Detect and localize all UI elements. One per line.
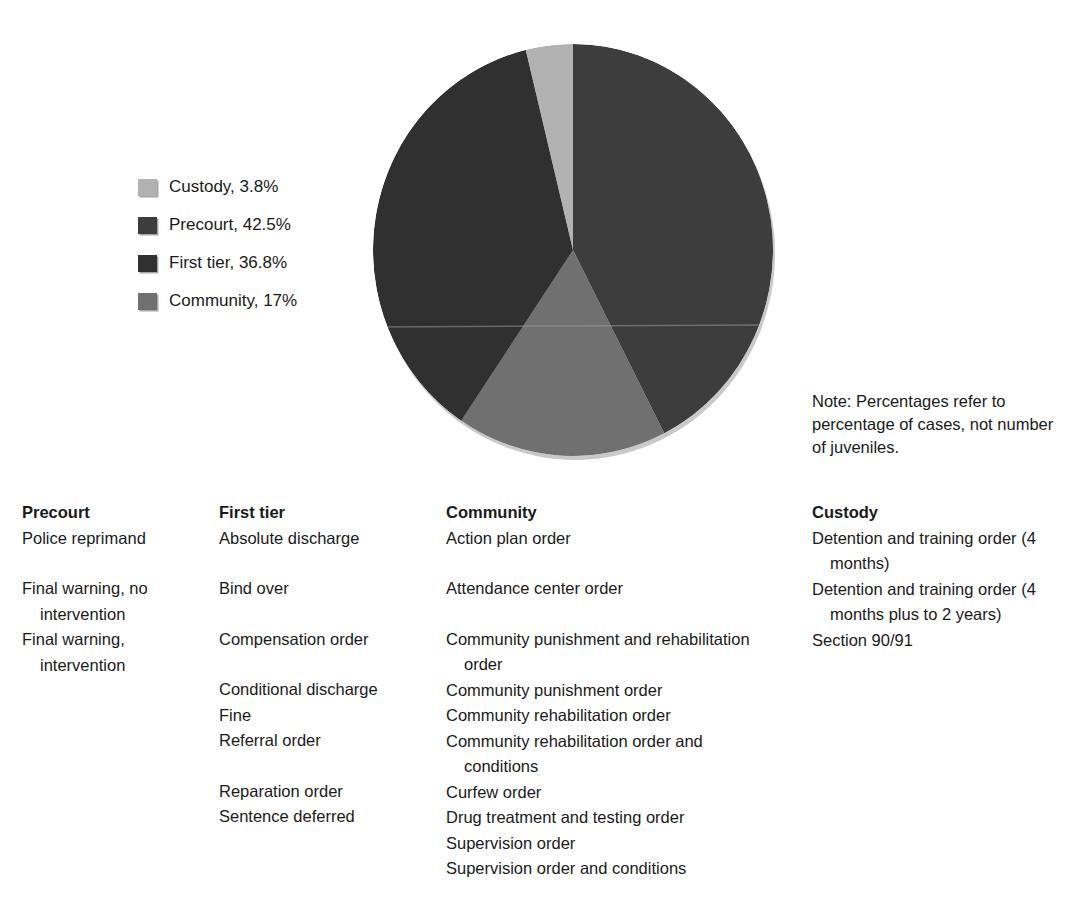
pie-chart-figure <box>372 22 782 462</box>
legend-item-community: Community, 17% <box>138 282 358 320</box>
disposal-entry: Conditional discharge <box>219 677 434 703</box>
disposal-entry: Bind over <box>219 576 434 602</box>
disposal-entry: Community rehabilitation order <box>446 703 766 729</box>
disposal-entry: Action plan order <box>446 526 766 552</box>
chart-legend: Custody, 3.8% Precourt, 42.5% First tier… <box>138 168 358 320</box>
disposal-entry: Fine <box>219 703 434 729</box>
legend-swatch-first-tier <box>138 255 157 272</box>
disposal-entry: Compensation order <box>219 627 434 653</box>
legend-swatch-precourt <box>138 217 157 234</box>
disposal-entry: Supervision order and conditions <box>446 856 766 882</box>
disposal-column-first-tier: First tier Absolute discharge Bind over … <box>219 500 434 830</box>
disposal-column-community: Community Action plan order Attendance c… <box>446 500 766 882</box>
legend-label-first-tier: First tier, 36.8% <box>169 253 287 273</box>
disposal-entry: Final warning, intervention <box>22 627 212 678</box>
column-heading-custody: Custody <box>812 500 1072 526</box>
disposal-entry: Supervision order <box>446 831 766 857</box>
chart-note: Note: Percentages refer to percentage of… <box>812 390 1062 459</box>
legend-swatch-custody <box>138 179 157 196</box>
column-heading-precourt: Precourt <box>22 500 212 526</box>
legend-label-precourt: Precourt, 42.5% <box>169 215 291 235</box>
disposal-entry: Drug treatment and testing order <box>446 805 766 831</box>
legend-label-custody: Custody, 3.8% <box>169 177 278 197</box>
disposal-entry: Community rehabilitation order and condi… <box>446 729 766 780</box>
disposal-entry: Reparation order <box>219 779 434 805</box>
column-heading-community: Community <box>446 500 766 526</box>
disposal-entry: Curfew order <box>446 780 766 806</box>
disposal-entry: Community punishment order <box>446 678 766 704</box>
legend-item-precourt: Precourt, 42.5% <box>138 206 358 244</box>
disposal-entry: Sentence deferred <box>219 804 434 830</box>
column-heading-first-tier: First tier <box>219 500 434 526</box>
legend-item-first-tier: First tier, 36.8% <box>138 244 358 282</box>
legend-swatch-community <box>138 293 157 310</box>
pie-chart-svg <box>372 22 782 462</box>
disposal-entry: Detention and training order (4 months) <box>812 526 1072 577</box>
disposal-entry: Final warning, no intervention <box>22 576 212 627</box>
disposal-entry: Police reprimand <box>22 526 212 552</box>
disposal-entry: Section 90/91 <box>812 628 1072 654</box>
disposal-entry: Detention and training order (4 months p… <box>812 577 1072 628</box>
legend-item-custody: Custody, 3.8% <box>138 168 358 206</box>
disposal-entry: Attendance center order <box>446 576 766 602</box>
disposal-entry: Absolute discharge <box>219 526 434 552</box>
disposal-entry: Community punishment and rehabilitation … <box>446 627 766 678</box>
disposal-entry: Referral order <box>219 728 434 754</box>
disposal-column-precourt: Precourt Police reprimand Final warning,… <box>22 500 212 678</box>
legend-label-community: Community, 17% <box>169 291 297 311</box>
disposal-column-custody: Custody Detention and training order (4 … <box>812 500 1072 653</box>
